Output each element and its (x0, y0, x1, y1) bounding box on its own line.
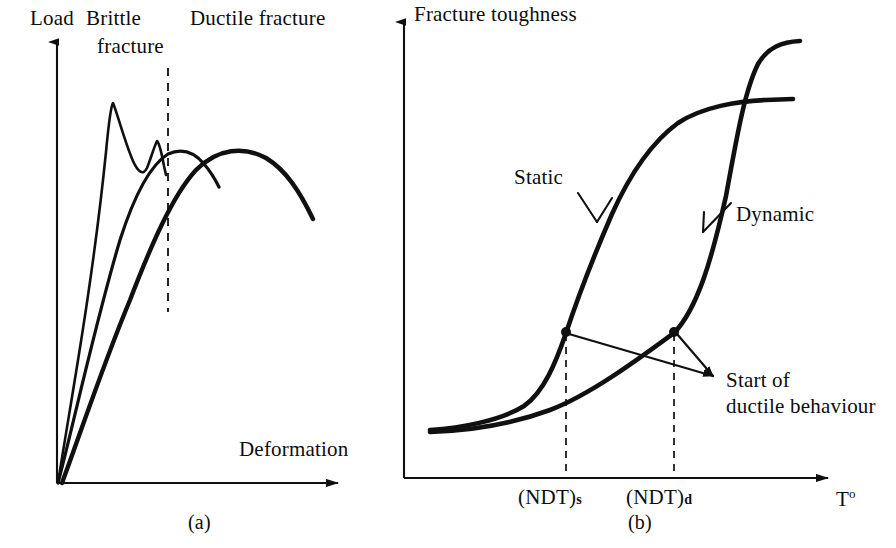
panel-b-tick-label-ndt-static: (NDT)s (518, 486, 582, 508)
panel-b-caption: (b) (628, 512, 652, 533)
panel-b-curve-leaders (578, 193, 731, 232)
degree-superscript: o (849, 486, 856, 501)
ndt-static-subscript: s (576, 492, 582, 507)
figure-drawing (0, 0, 896, 548)
leader-static-label (578, 193, 597, 222)
panel-b-annotation-leaders (569, 334, 713, 376)
panel-a-ductile-label: Ductile fracture (190, 7, 326, 29)
marker-dot-static (561, 327, 571, 337)
curve-brittle-sharp (58, 103, 166, 483)
panel-a-curves (58, 103, 313, 483)
panel-b-y-axis-label: Fracture toughness (414, 3, 577, 25)
panel-a-brittle-label-line2: fracture (97, 35, 164, 57)
panel-b-dynamic-curve-label: Dynamic (736, 203, 814, 225)
panel-a-y-axis-label: Load (30, 7, 74, 29)
annotation-line-1: Start of (726, 368, 876, 394)
ndt-dynamic-subscript: d (684, 492, 692, 507)
ndt-static-base: (NDT) (518, 485, 576, 509)
panel-b-ductile-start-annotation: Start of ductile behaviour (726, 368, 876, 419)
panel-b-static-curve-label: Static (514, 166, 563, 188)
leader-static-to-annotation (569, 334, 713, 376)
panel-a-axes (57, 42, 338, 483)
annotation-line-2: ductile behaviour (726, 394, 876, 420)
panel-a-brittle-label-line1: Brittle (86, 7, 141, 29)
leader-dynamic-label-tick (703, 212, 704, 232)
ndt-dynamic-base: (NDT) (626, 485, 684, 509)
panel-b-x-axis-label: To (836, 487, 856, 510)
panel-a-caption: (a) (188, 512, 211, 533)
temperature-symbol: T (836, 487, 849, 511)
panel-a-x-axis-label: Deformation (239, 438, 349, 460)
figure-container: Load Brittle fracture Ductile fracture D… (0, 0, 896, 548)
panel-b-tick-label-ndt-dynamic: (NDT)d (626, 486, 692, 508)
